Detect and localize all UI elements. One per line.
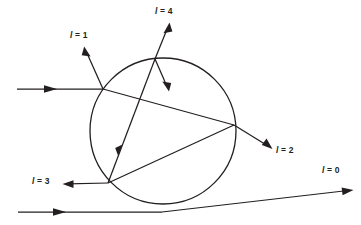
diagram-canvas [0, 0, 361, 225]
refracted-ray-l4-arrowhead [164, 23, 173, 34]
reflected-ray-l1-arrowhead [82, 47, 91, 57]
outgoing-ray-l0-arrowhead [342, 187, 354, 195]
label-l3: l = 3 [32, 177, 50, 186]
label-l0: l = 0 [322, 166, 340, 175]
outgoing-ray-l0 [162, 191, 348, 213]
incoming-upper-ray-arrowhead [44, 85, 57, 93]
internal-ray-down-right-arrowhead [162, 82, 171, 92]
refracted-ray-l3-arrowhead [63, 180, 74, 188]
reflected-ray-l1 [86, 51, 103, 89]
label-l2-value: 2 [289, 145, 294, 155]
label-l3-equals: = [35, 176, 45, 186]
label-l2-equals: = [279, 145, 289, 155]
refracted-ray-l2-arrowhead [262, 139, 273, 149]
refracted-ray-l2 [234, 125, 268, 146]
refracted-ray-l3 [68, 183, 108, 184]
label-l4: l = 4 [155, 7, 173, 16]
label-l2: l = 2 [276, 146, 294, 155]
label-l4-value: 4 [168, 6, 173, 16]
label-l1-equals: = [73, 30, 83, 40]
chord-upper-to-right [103, 89, 234, 125]
label-l1-value: 1 [83, 30, 88, 40]
incoming-lower-ray-arrowhead [53, 208, 66, 216]
label-l3-value: 3 [45, 176, 50, 186]
ray-diagram-figure: l = 4 l = 1 l = 2 l = 3 l = 0 [0, 0, 361, 225]
label-l4-equals: = [158, 6, 168, 16]
label-l0-value: 0 [335, 165, 340, 175]
label-l0-equals: = [325, 165, 335, 175]
label-l1: l = 1 [70, 31, 88, 40]
circle-boundary [90, 58, 236, 204]
